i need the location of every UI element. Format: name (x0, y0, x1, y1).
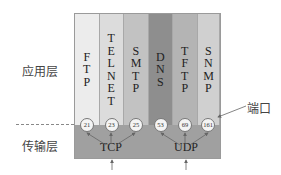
port-circle-69: 69 (178, 118, 192, 132)
protocol-column-dns: D N S (149, 14, 174, 125)
protocol-stack-frame: F T P T E L N E T S M T P D N S T F T P … (74, 13, 221, 159)
port-circle-25: 25 (129, 118, 143, 132)
layer-divider-line (16, 124, 74, 125)
protocol-column-ftp: F T P (75, 14, 100, 125)
transport-layer-label: 传输层 (22, 137, 58, 154)
port-annotation-arrow (218, 106, 246, 117)
protocol-name: S M T P (131, 45, 141, 95)
protocol-column-telnet: T E L N E T (100, 14, 125, 125)
protocol-column-snmp: S N M P (198, 14, 221, 125)
protocol-name: T E L N E T (106, 32, 116, 107)
tcp-udp-port-diagram: 应用层 传输层 F T P T E L N E T S M T P D N S … (0, 0, 281, 175)
transport-layer-band (75, 125, 220, 158)
protocol-name: T F T P (180, 45, 190, 95)
port-circle-23: 23 (105, 118, 119, 132)
port-annotation-label: 端口 (247, 99, 271, 116)
protocol-name: S N M P (203, 45, 213, 95)
protocol-column-smtp: S M T P (124, 14, 149, 125)
incoming-arrows (112, 160, 186, 170)
application-layer-label: 应用层 (22, 62, 58, 79)
udp-label: UDP (174, 140, 198, 155)
port-circle-161: 161 (201, 118, 215, 132)
protocol-column-tftp: T F T P (173, 14, 198, 125)
protocol-name: F T P (82, 51, 92, 89)
port-circle-21: 21 (80, 118, 94, 132)
tcp-label: TCP (100, 140, 122, 155)
protocol-name: D N S (155, 51, 165, 89)
port-circle-53: 53 (154, 118, 168, 132)
